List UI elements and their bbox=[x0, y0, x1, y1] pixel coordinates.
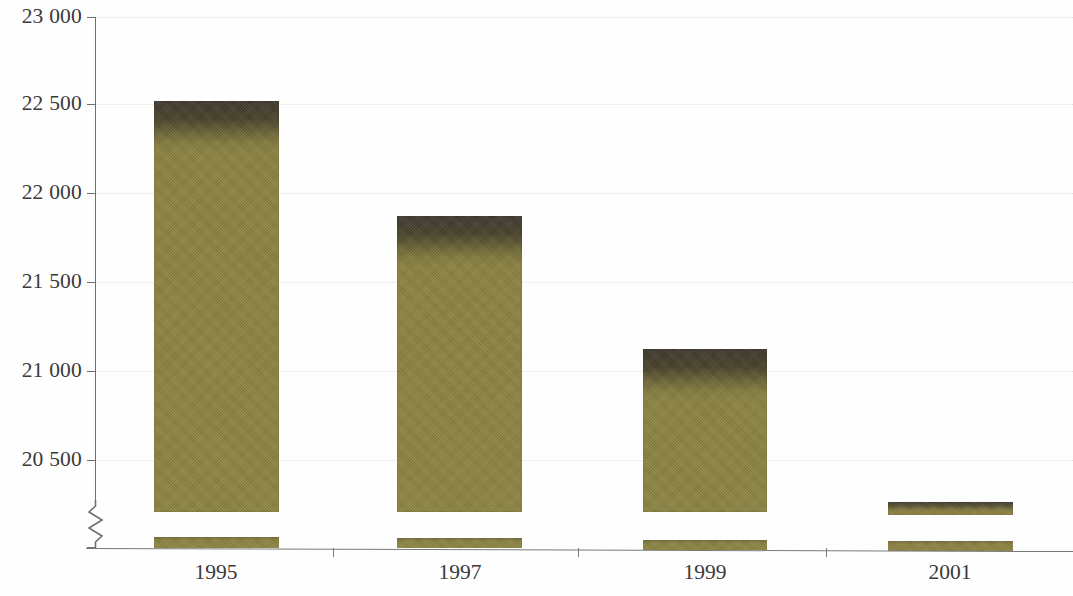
bar-stub-2001 bbox=[888, 541, 1013, 551]
y-tick-22500 bbox=[87, 104, 96, 105]
y-tick-21500 bbox=[87, 282, 96, 283]
x-tick-0 bbox=[333, 548, 334, 557]
bar-1999 bbox=[643, 349, 767, 512]
bar-chart: 23 000 22 500 22 000 21 500 21 000 20 50… bbox=[0, 0, 1073, 596]
y-tick-23000 bbox=[87, 17, 96, 18]
y-axis-label-21500: 21 500 bbox=[0, 271, 82, 293]
x-axis-label-2001: 2001 bbox=[880, 562, 1020, 584]
x-axis-label-1999: 1999 bbox=[635, 562, 775, 584]
y-axis-label-21000: 21 000 bbox=[0, 360, 82, 382]
y-tick-20500 bbox=[87, 460, 96, 461]
gridline-23000 bbox=[96, 17, 1073, 18]
bar-stub-1997 bbox=[397, 538, 522, 548]
bar-stub-1999 bbox=[643, 540, 767, 550]
y-tick-21000 bbox=[87, 371, 96, 372]
x-axis-label-1995: 1995 bbox=[146, 562, 286, 584]
bar-1997 bbox=[397, 216, 522, 512]
y-tick-origin bbox=[87, 547, 96, 548]
y-axis-label-20500: 20 500 bbox=[0, 449, 82, 471]
x-tick-2 bbox=[826, 548, 827, 557]
y-tick-22000 bbox=[87, 193, 96, 194]
x-tick-1 bbox=[578, 548, 579, 557]
axis-break-icon bbox=[86, 500, 106, 548]
y-axis-line bbox=[95, 17, 96, 505]
bar-2001 bbox=[888, 502, 1013, 515]
bar-stub-1995 bbox=[154, 537, 279, 548]
y-axis-label-23000: 23 000 bbox=[0, 6, 82, 28]
x-axis-label-1997: 1997 bbox=[390, 562, 530, 584]
y-axis-label-22500: 22 500 bbox=[0, 93, 82, 115]
y-axis-label-22000: 22 000 bbox=[0, 182, 82, 204]
plot-area: 23 000 22 500 22 000 21 500 21 000 20 50… bbox=[0, 0, 1073, 596]
bar-1995 bbox=[154, 101, 279, 512]
